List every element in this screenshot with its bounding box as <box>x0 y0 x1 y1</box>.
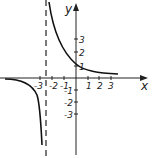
x-tick-label: 2 <box>97 81 103 91</box>
y-tick-label: -1 <box>64 86 73 96</box>
y-axis-label: y <box>64 2 73 16</box>
function-graph: -3 -2 -1 1 2 3 3 2 1 -1 -2 -3 x y <box>0 0 153 158</box>
x-tick-label: 3 <box>108 81 114 91</box>
y-tick-label: -3 <box>64 110 73 120</box>
x-tick-label: 1 <box>86 81 92 91</box>
y-tick-label: -2 <box>64 98 73 108</box>
y-tick-label: 3 <box>79 35 85 45</box>
x-axis-label: x <box>140 79 149 93</box>
x-tick-label: -3 <box>34 81 43 91</box>
x-tick-label: -2 <box>49 81 58 91</box>
y-axis-arrow-icon <box>73 3 79 11</box>
y-tick-label: 2 <box>79 48 85 58</box>
